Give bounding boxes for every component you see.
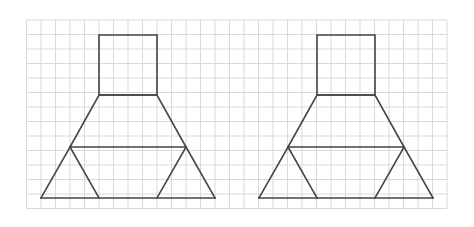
diagram-canvas bbox=[0, 0, 474, 227]
